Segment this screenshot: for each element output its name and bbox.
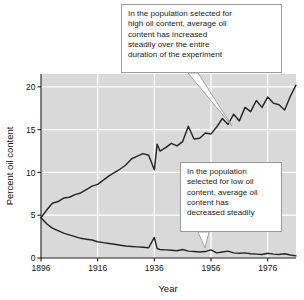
annotation-low-line-4: content has (187, 198, 276, 208)
annotation-high-line-4: steadily over the entire (128, 40, 276, 50)
annotation-high-line-1: In the population selected for (128, 9, 276, 19)
x-tick-label-1976: 1976 (258, 263, 277, 273)
y-tick-label-10: 10 (26, 168, 36, 178)
annotation-low-oil-content: In the population selected for low oil c… (180, 162, 282, 232)
annotation-high-line-2: high oil content, average oil (128, 19, 276, 29)
x-tick-label-1936: 1936 (145, 263, 164, 273)
annotation-low-line-2: selected for low oil (187, 177, 276, 187)
y-tick-label-15: 15 (26, 125, 36, 135)
annotation-low-line-5: decreased steadily (187, 208, 276, 218)
x-tick-label-1956: 1956 (202, 263, 221, 273)
y-tick-label-0: 0 (31, 253, 36, 263)
x-tick-label-1916: 1916 (88, 263, 107, 273)
y-tick-label-20: 20 (26, 82, 36, 92)
y-tick-label-5: 5 (31, 210, 36, 220)
x-axis-title: Year (158, 283, 177, 294)
x-tick-label-1896: 1896 (32, 263, 51, 273)
annotation-high-oil-content: In the population selected for high oil … (121, 4, 282, 73)
x-axis-ticks: 18961916193619561976 (32, 258, 278, 273)
annotation-high-line-3: content has increased (128, 30, 276, 40)
annotation-low-line-3: content, average oil (187, 188, 276, 198)
oil-content-figure: 05101520 18961916193619561976 Percent oi… (0, 0, 304, 300)
y-axis-title: Percent oil content (4, 126, 15, 205)
y-axis-ticks: 05101520 (26, 82, 41, 263)
annotation-high-line-5: duration of the experiment (128, 50, 276, 60)
annotation-low-line-1: In the population (187, 167, 276, 177)
